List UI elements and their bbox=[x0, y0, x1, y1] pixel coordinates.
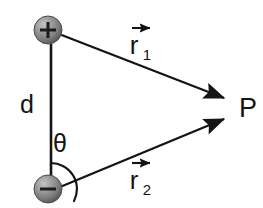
negative-charge bbox=[34, 175, 62, 203]
vector-r1-letter: r bbox=[130, 30, 139, 60]
vector-r2-subscript: 2 bbox=[143, 181, 151, 198]
vector-r1-label: r 1 bbox=[130, 30, 152, 63]
dipole-diagram-canvas: d θ r 1 r 2 P bbox=[0, 0, 263, 208]
vector-r1-line bbox=[59, 34, 224, 98]
vector-r2-letter: r bbox=[130, 165, 139, 195]
vector-r2-label: r 2 bbox=[130, 165, 152, 198]
separation-label: d bbox=[20, 90, 34, 118]
electric-dipole-figure: d θ r 1 r 2 P bbox=[0, 0, 263, 208]
point-p-label: P bbox=[239, 93, 257, 123]
vector-r2-line bbox=[60, 119, 224, 187]
vector-r1-subscript: 1 bbox=[143, 46, 151, 63]
angle-label: θ bbox=[53, 129, 67, 157]
positive-charge bbox=[34, 16, 62, 44]
